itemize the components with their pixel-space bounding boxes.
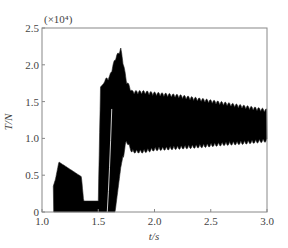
y-tick-label: 0 (34, 206, 40, 218)
y-tick-label: 1.5 (25, 96, 39, 108)
y-tick-label: 1.0 (25, 132, 39, 144)
y-multiplier: (×10⁴) (44, 13, 73, 26)
plot-area (53, 48, 267, 212)
y-tick-label: 2.5 (25, 22, 39, 34)
x-tick-label: 2.5 (204, 215, 218, 227)
y-tick-label: 2.0 (25, 59, 39, 71)
tension-band (53, 48, 267, 212)
tension-chart: 1.01.52.02.53.0 00.51.01.52.02.5 (×10⁴) … (0, 0, 288, 248)
x-tick-label: 3.0 (260, 215, 274, 227)
y-tick-label: 0.5 (25, 169, 39, 181)
y-axis-label: T/N (2, 113, 14, 130)
x-tick-label: 1.5 (91, 215, 105, 227)
x-tick-label: 2.0 (148, 215, 162, 227)
x-axis-label: t/s (149, 230, 159, 242)
